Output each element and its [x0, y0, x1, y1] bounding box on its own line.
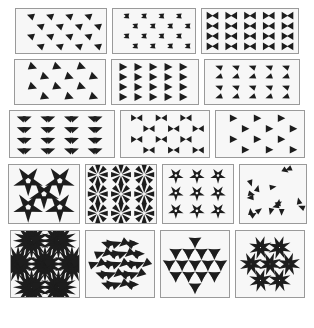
panel-alternating-thin-triangles	[204, 59, 300, 105]
panel-row-3	[0, 110, 314, 158]
panel-row-5	[0, 230, 314, 298]
panel-sparse-pinwheels	[8, 164, 80, 224]
panel-row-2	[0, 59, 314, 105]
panel-paired-arrow-triangles	[112, 8, 196, 54]
panel-row-4	[0, 164, 314, 224]
panel-triangular-cluster-hex	[85, 230, 155, 298]
panel-pinwheel-rosette-cluster	[235, 230, 305, 298]
panel-pinwheel-grid	[162, 164, 234, 224]
panel-nested-triangle-motifs	[160, 230, 230, 298]
panel-dense-asterisk-stars	[85, 164, 157, 224]
panel-staggered-right-triangles	[14, 59, 106, 105]
panel-row-1	[0, 8, 314, 54]
panel-bowtie-offset-grid	[120, 110, 210, 158]
panel-sparse-right-triangles	[215, 110, 305, 158]
panel-sparse-left-triangles	[15, 8, 107, 54]
panel-dense-opposed-triangles	[201, 8, 299, 54]
panel-hexagonal-rosette-flower	[10, 230, 80, 298]
panel-uniform-right-triangles	[111, 59, 199, 105]
panel-chevron-zigzag-rows	[9, 110, 115, 158]
figure-plate	[0, 8, 314, 328]
panel-scattered-random-triangles	[239, 164, 307, 224]
